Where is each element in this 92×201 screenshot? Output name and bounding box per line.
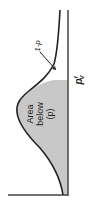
svg-text:below: below bbox=[35, 102, 45, 126]
tail-arrow bbox=[40, 52, 56, 70]
tail-label: 1-p bbox=[33, 40, 42, 52]
svg-text:pfV: pfV bbox=[73, 74, 85, 85]
density-diagram: Area below (p) 1-p pfV bbox=[0, 0, 92, 201]
svg-text:1-p: 1-p bbox=[33, 40, 42, 52]
svg-text:Area: Area bbox=[25, 104, 35, 123]
svg-text:(p): (p) bbox=[45, 108, 55, 119]
shaded-area bbox=[17, 80, 68, 195]
threshold-label: pfV bbox=[73, 74, 85, 85]
